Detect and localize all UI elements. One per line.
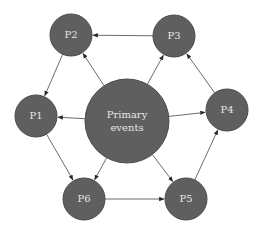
node-p1: P1 bbox=[15, 95, 57, 137]
node-p3: P3 bbox=[153, 15, 195, 57]
arrow-primary-to-p5 bbox=[152, 154, 172, 181]
node-p6: P6 bbox=[63, 178, 105, 220]
node-label: P3 bbox=[167, 30, 180, 41]
arrow-primary-to-p3 bbox=[147, 55, 163, 84]
arrow-p1-to-p6 bbox=[47, 134, 73, 180]
arrow-p3-to-p2 bbox=[93, 35, 153, 36]
node-primary: Primaryevents bbox=[85, 79, 169, 163]
arrow-p5-to-p4 bbox=[195, 130, 218, 180]
event-cycle-diagram: PrimaryeventsP1P2P3P4P5P6 bbox=[0, 0, 260, 232]
node-label-line1: Primary bbox=[107, 109, 148, 120]
arrow-p4-to-p3 bbox=[187, 54, 215, 93]
node-label: P1 bbox=[29, 110, 42, 121]
arrow-primary-to-p2 bbox=[83, 53, 104, 85]
arrow-primary-to-p4 bbox=[169, 112, 205, 116]
node-label-line2: events bbox=[110, 122, 143, 133]
node-label: P6 bbox=[77, 193, 90, 204]
arrow-primary-to-p6 bbox=[95, 158, 107, 180]
arrow-primary-to-p1 bbox=[58, 117, 85, 118]
node-label: P2 bbox=[64, 29, 77, 40]
node-label: P4 bbox=[220, 104, 233, 115]
nodes: PrimaryeventsP1P2P3P4P5P6 bbox=[15, 14, 248, 220]
node-p4: P4 bbox=[206, 89, 248, 131]
arrow-p2-to-p1 bbox=[45, 54, 63, 96]
node-label: P5 bbox=[179, 193, 192, 204]
node-p5: P5 bbox=[165, 178, 207, 220]
node-p2: P2 bbox=[50, 14, 92, 56]
